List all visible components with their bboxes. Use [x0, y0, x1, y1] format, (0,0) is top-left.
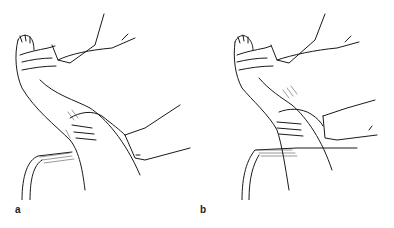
leg-examination-illustration-b [197, 0, 394, 200]
panel-label-b: b [200, 204, 206, 215]
leg-examination-illustration-a [0, 0, 197, 200]
figure-panel-a [0, 0, 197, 200]
panel-label-a: a [15, 204, 21, 215]
figure-panel-b [197, 0, 394, 200]
